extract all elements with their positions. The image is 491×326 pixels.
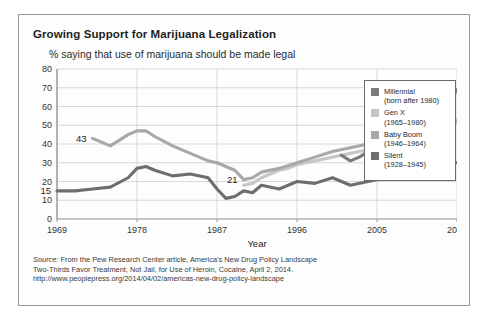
chart-legend: Millennial (born after 1980) Gen X (1965…	[364, 80, 456, 181]
source-label: Source:	[33, 255, 58, 264]
legend-label-babyboom: Baby Boom (1946–1964)	[384, 130, 426, 148]
legend-label-genx: Gen X (1965–1980)	[384, 108, 426, 126]
legend-item-babyboom[interactable]: Baby Boom (1946–1964)	[371, 130, 450, 148]
legend-swatch-silent	[371, 152, 379, 160]
y-axis-tick-label: 60	[42, 102, 52, 112]
source-line-2: Two-Thirds Favor Treatment, Not Jail, fo…	[33, 265, 293, 274]
legend-label-millennial: Millennial (born after 1980)	[384, 87, 439, 105]
legend-item-millennial[interactable]: Millennial (born after 1980)	[371, 87, 450, 105]
source-line-3: http://www.peoplepress.org/2014/04/02/am…	[33, 274, 284, 283]
legend-swatch-millennial	[371, 88, 379, 96]
y-axis-tick-label: 70	[42, 83, 52, 93]
y-axis-tick-label: 30	[42, 158, 52, 168]
y-axis-tick-label: 40	[42, 139, 52, 149]
data-label: 43	[76, 133, 87, 144]
x-axis-tick-label: 2005	[367, 225, 387, 235]
x-axis-tick-label: 1978	[127, 225, 147, 235]
x-axis-title: Year	[247, 238, 266, 249]
legend-swatch-genx	[371, 109, 379, 117]
source-line-1: From the Pew Research Center article, Am…	[58, 255, 317, 264]
data-label: 21	[227, 174, 238, 185]
legend-item-genx[interactable]: Gen X (1965–1980)	[371, 108, 450, 126]
x-axis-tick-label: 1969	[47, 225, 67, 235]
legend-swatch-babyboom	[371, 131, 379, 139]
legend-item-silent[interactable]: Silent (1928–1945)	[371, 151, 450, 169]
chart-subtitle: % saying that use of marijuana should be…	[49, 48, 295, 60]
x-axis-tick-label: 1987	[207, 225, 227, 235]
data-label: 15	[40, 185, 51, 196]
figure-frame: Growing Support for Marijuana Legalizati…	[18, 14, 470, 306]
y-axis-tick-label: 10	[42, 195, 52, 205]
source-note: Source: From the Pew Research Center art…	[33, 255, 453, 284]
x-axis-tick-label: 2014	[447, 225, 457, 235]
legend-label-silent: Silent (1928–1945)	[384, 151, 426, 169]
y-axis-tick-label: 50	[42, 120, 52, 130]
x-axis-tick-label: 1996	[287, 225, 307, 235]
y-axis-tick-label: 0	[47, 214, 52, 224]
chart-title: Growing Support for Marijuana Legalizati…	[33, 28, 276, 40]
y-axis-tick-label: 80	[42, 64, 52, 74]
